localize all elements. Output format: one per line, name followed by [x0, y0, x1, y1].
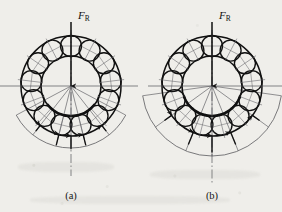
- caption-b: (b): [206, 190, 219, 202]
- load-reaction-arrow: [252, 115, 260, 120]
- load-reaction-arrow: [36, 125, 41, 131]
- load-reaction-arrow: [188, 132, 193, 145]
- load-reaction-arrow: [164, 115, 172, 120]
- ball-cross-tick: [232, 110, 245, 122]
- ball-cross-tick: [45, 46, 61, 54]
- ball-cross-tick: [179, 110, 192, 122]
- ball-center-tick: [187, 39, 199, 61]
- ball-center-tick: [46, 39, 58, 61]
- panel-a: FR (a): [0, 9, 138, 202]
- ball-cross-tick: [223, 46, 239, 54]
- ball-cross-tick: [82, 46, 98, 54]
- load-reaction-arrow: [83, 134, 86, 145]
- ball-cross-tick: [33, 56, 43, 71]
- ball-cross-tick: [174, 56, 184, 71]
- ball-center-tick: [225, 39, 237, 61]
- applied-load-label-b-sub: R: [226, 14, 231, 23]
- load-reaction-arrow: [231, 132, 236, 145]
- applied-load-label-a: FR: [77, 9, 90, 23]
- panel-b: FR (b): [143, 9, 282, 202]
- ball-cross-tick: [186, 46, 202, 54]
- applied-load-label-a-sub: R: [85, 14, 90, 23]
- ball-center-tick: [84, 39, 96, 61]
- load-reaction-arrow: [101, 125, 106, 131]
- ball-cross-tick: [246, 92, 252, 109]
- applied-load-label-b: FR: [218, 9, 231, 23]
- bearing-load-distribution-figure: FR (a) FR (b): [0, 0, 282, 212]
- caption-a: (a): [65, 190, 77, 202]
- load-reaction-arrow: [56, 134, 59, 145]
- ball-cross-tick: [99, 56, 109, 71]
- ball-cross-tick: [171, 92, 177, 109]
- ball-cross-tick: [240, 56, 250, 71]
